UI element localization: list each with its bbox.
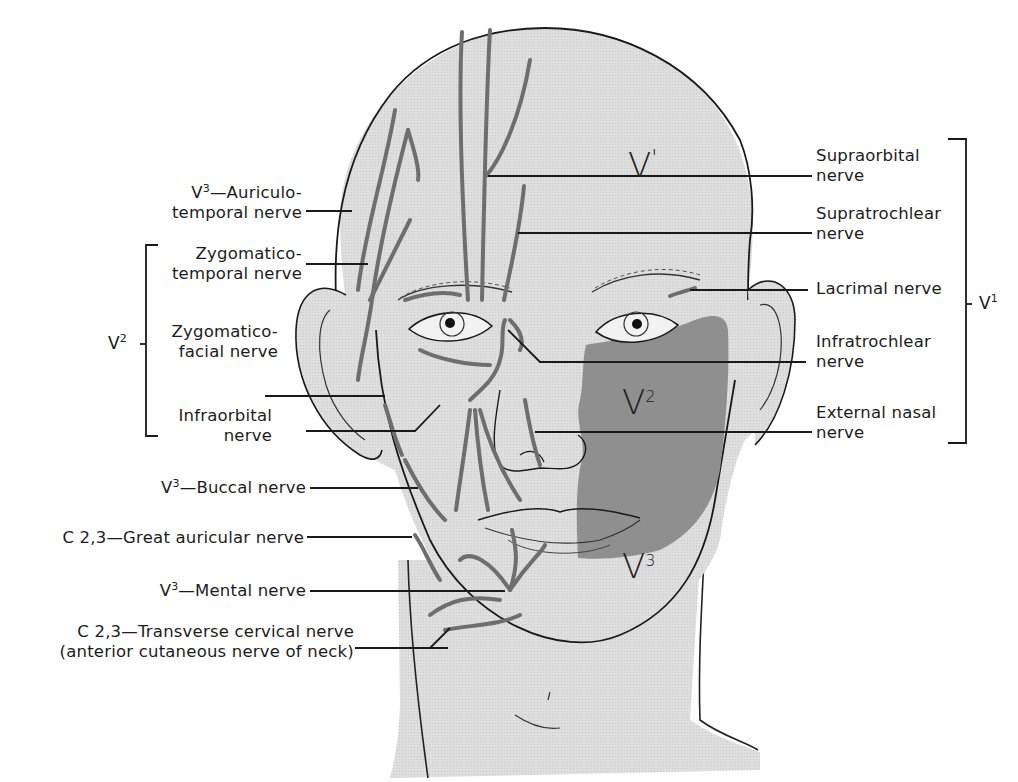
label-external-nasal-nerve: External nasal nerve	[816, 403, 936, 443]
label-transverse-cervical-nerve: C 2,3—Transverse cervical nerve (anterio…	[60, 622, 354, 662]
region-v3-label: V3	[622, 546, 655, 586]
group-v2-label: V2	[108, 333, 127, 353]
label-infratrochlear-nerve: Infratrochlear nerve	[816, 332, 931, 372]
region-v1-label: V'	[628, 145, 657, 185]
label-supratrochlear-nerve: Supratrochlear nerve	[816, 204, 941, 244]
label-auriculotemporal-nerve: V3—Auriculo- temporal nerve	[172, 183, 302, 223]
label-infraorbital-nerve: Infraorbital nerve	[178, 406, 272, 446]
label-lacrimal-nerve: Lacrimal nerve	[816, 279, 942, 299]
label-great-auricular-nerve: C 2,3—Great auricular nerve	[62, 528, 304, 548]
label-zygomaticofacial-nerve: Zygomatico- facial nerve	[171, 322, 278, 362]
label-mental-nerve: V3—Mental nerve	[160, 581, 306, 601]
head-illustration	[0, 0, 1018, 782]
group-v1-label: V1	[979, 293, 998, 313]
label-buccal-nerve: V3—Buccal nerve	[161, 478, 306, 498]
region-v2-label: V2	[622, 382, 655, 422]
face-nerve-diagram: V' V2 V3 V2 V1 V3—Auriculo- temporal ner…	[0, 0, 1018, 782]
label-supraorbital-nerve: Supraorbital nerve	[816, 146, 920, 186]
label-zygomaticotemporal-nerve: Zygomatico- temporal nerve	[172, 244, 302, 284]
